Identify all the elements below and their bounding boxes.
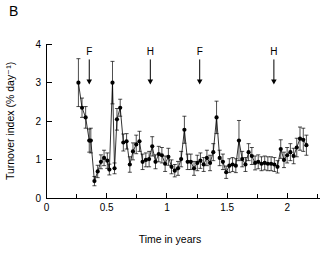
x-axis-title: Time in years [139,233,202,245]
data-point [99,160,103,164]
data-point [189,160,193,164]
data-point [89,138,93,142]
data-point [169,165,173,169]
data-point [179,157,183,161]
data-point [275,165,279,169]
event-annotations-group: FHFH [86,46,277,84]
data-point [279,147,283,151]
data-point [250,154,254,158]
x-tick-label: 0.5 [100,202,114,213]
data-point [105,159,109,163]
data-point [163,162,167,166]
x-tick-label: 1 [164,202,170,213]
x-tick-label: 1.5 [220,202,234,213]
y-tick-label: 1 [35,154,41,165]
data-point [237,138,241,142]
arrow-head-icon [148,80,154,85]
arrow-head-icon [271,80,277,85]
x-axis-ticks: 00.511.52 [44,193,291,214]
data-point [80,106,84,110]
data-point [295,145,299,149]
turnover-index-chart: 01234 00.511.52 FHFH Time in years Turno… [0,0,330,256]
data-point [107,167,111,171]
data-point [131,149,135,153]
event-annotation-h: H [147,46,154,84]
data-point [292,154,296,158]
data-point [153,160,157,164]
data-point [224,170,228,174]
data-point [124,139,128,143]
data-point [285,153,289,157]
data-point [96,169,100,173]
data-markers-group [76,81,308,184]
data-point [150,144,154,148]
data-point [192,166,196,170]
data-point [84,115,88,119]
data-point [182,128,186,132]
data-point [147,157,151,161]
x-axis-minor-ticks [77,194,318,199]
arrow-head-icon [86,80,92,85]
data-point [246,150,250,154]
data-point [118,106,122,110]
data-point [202,162,206,166]
event-label: H [147,46,154,57]
event-label: F [86,46,92,57]
x-tick-label: 2 [285,202,291,213]
data-point [160,153,164,157]
data-point [243,162,247,166]
y-axis-title: Turnover index (% day⁻¹) [4,62,16,180]
event-label: H [270,46,277,57]
y-tick-label: 3 [35,77,41,88]
data-point [102,156,106,160]
data-point [115,117,119,121]
data-point [214,115,218,119]
data-point [137,139,141,143]
data-point [208,161,212,165]
data-point [205,156,209,160]
data-point [134,142,138,146]
data-point [110,81,114,85]
event-annotation-f: F [86,46,92,84]
x-tick-label: 0 [44,202,50,213]
data-point [288,150,292,154]
y-axis-ticks: 01234 [35,39,52,205]
data-point [128,162,132,166]
plot-axes [47,44,321,199]
data-point [234,164,238,168]
series-line-turnover [78,83,306,181]
arrow-head-icon [197,80,203,85]
data-point [282,158,286,162]
data-point [301,138,305,142]
data-point [176,166,180,170]
data-point [304,143,308,147]
data-point [211,150,215,154]
data-point [112,166,116,170]
data-point [221,160,225,164]
data-point [240,157,244,161]
event-label: F [197,46,203,57]
data-point [92,179,96,183]
data-point [76,81,80,85]
figure-panel: B 01234 00.511.52 FHFH Time in years Tur… [0,0,330,256]
data-point [218,156,222,160]
event-annotation-h: H [270,46,277,84]
data-point [198,159,202,163]
event-annotation-f: F [197,46,203,84]
data-point [166,155,170,159]
y-tick-label: 4 [35,39,41,50]
y-tick-label: 2 [35,116,41,127]
y-tick-label: 0 [35,193,41,204]
